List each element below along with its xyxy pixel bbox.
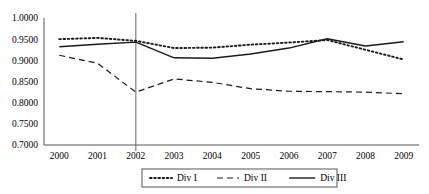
y-tick-label: 0.8000 bbox=[12, 98, 38, 108]
x-tick-label: 2004 bbox=[203, 151, 222, 161]
x-tick-label: 2005 bbox=[241, 151, 260, 161]
x-tick-label: 2001 bbox=[88, 151, 107, 161]
line-chart: 0.70000.75000.80000.85000.90000.95001.00… bbox=[0, 0, 429, 194]
y-tick-labels: 0.70000.75000.80000.85000.90000.95001.00… bbox=[12, 13, 38, 150]
y-tick-label: 0.9000 bbox=[12, 56, 38, 66]
x-tick-label: 2003 bbox=[165, 151, 184, 161]
series-line-div-iii bbox=[59, 39, 403, 58]
x-tick-labels: 2000200120022003200420052006200720082009 bbox=[50, 151, 414, 161]
chart-legend: Div IDiv IIDiv III bbox=[142, 169, 346, 187]
legend-label-div-i: Div I bbox=[177, 173, 197, 183]
y-tick-label: 0.7000 bbox=[12, 140, 38, 150]
data-series-group bbox=[59, 38, 403, 94]
x-tick-label: 2007 bbox=[318, 151, 337, 161]
x-tick-label: 2009 bbox=[394, 151, 413, 161]
x-tick-label: 2002 bbox=[126, 151, 145, 161]
legend-label-div-iii: Div III bbox=[320, 173, 346, 183]
legend-label-div-ii: Div II bbox=[244, 173, 267, 183]
x-tick-label: 2008 bbox=[356, 151, 375, 161]
y-tick-label: 0.8500 bbox=[12, 77, 38, 87]
y-tick-label: 0.7500 bbox=[12, 119, 38, 129]
x-tick-label: 2000 bbox=[50, 151, 69, 161]
x-tick-label: 2006 bbox=[279, 151, 298, 161]
y-tick-label: 0.9500 bbox=[12, 35, 38, 45]
chart-canvas: 0.70000.75000.80000.85000.90000.95001.00… bbox=[0, 0, 429, 194]
y-tick-label: 1.0000 bbox=[12, 13, 38, 23]
series-line-div-ii bbox=[59, 55, 403, 94]
